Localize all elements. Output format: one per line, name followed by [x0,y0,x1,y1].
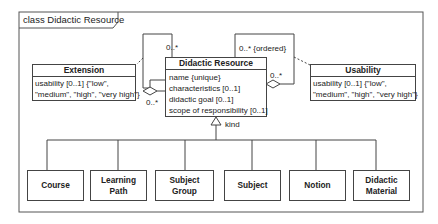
multiplicity-label: 0..* [146,98,158,107]
attribute: characteristics [0..1] [169,83,263,94]
attribute: name {unique} [169,72,263,83]
multiplicity-label: 0..* {ordered} [239,44,286,53]
attribute: usability [0..1] {"low", [35,78,133,89]
multiplicity-label: 0..* [166,43,178,52]
class-name-line2: Path [101,186,136,197]
class-course[interactable]: Course [27,170,84,201]
class-name: Usability [311,65,415,77]
class-subject[interactable]: Subject [224,170,281,201]
attribute: "medium", "high", "very high"} [35,89,133,100]
attribute: usability [0..1] {"low", [313,78,413,89]
attribute: "medium", "high", "very high"} [313,89,413,100]
class-name: Subject [238,180,268,191]
attribute: didactic goal [0..1] [169,94,263,105]
class-didactic-material[interactable]: DidacticMaterial [353,170,410,201]
class-name-line2: Material [365,186,397,197]
class-subject-group[interactable]: Subject Group [155,170,214,201]
class-attributes: name {unique} characteristics [0..1] did… [166,70,266,118]
class-attributes: usability [0..1] {"low", "medium", "high… [33,77,135,101]
frame-title: class Didactic Resource [23,14,124,25]
class-notion[interactable]: Notion [289,170,346,201]
class-learning-path[interactable]: LearningPath [90,170,147,201]
class-name: Learning [101,175,136,186]
class-name: Didactic Resource [166,58,266,70]
class-attributes: usability [0..1] {"low", "medium", "high… [311,77,415,101]
multiplicity-label: 0..* [270,71,282,80]
attribute: scope of responsibility [0..1] [169,105,263,116]
class-name: Extension [33,65,135,77]
generalization-label: kind [225,120,240,129]
class-name: Course [41,180,70,191]
class-name: Notion [304,180,330,191]
class-name: Subject Group [156,175,213,197]
class-name: Didactic [365,175,397,186]
class-didactic-resource[interactable]: Didactic Resource name {unique} characte… [165,57,267,117]
class-usability[interactable]: Usability usability [0..1] {"low", "medi… [310,64,416,101]
class-extension[interactable]: Extension usability [0..1] {"low", "medi… [32,64,136,101]
